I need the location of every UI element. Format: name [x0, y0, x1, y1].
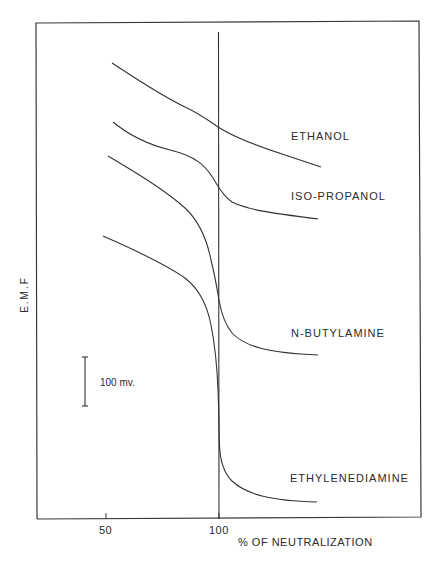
- label-isopropanol: ISO-PROPANOL: [291, 190, 386, 202]
- scale-bar: [82, 357, 88, 406]
- label-nbutylamine: N-BUTYLAMINE: [291, 327, 385, 339]
- chart-frame: [36, 21, 421, 519]
- curve-ethanol: [112, 63, 321, 167]
- x-tick-label-100: 100: [209, 524, 229, 536]
- x-axis-label: % OF NEUTRALIZATION: [238, 536, 373, 548]
- curve-isopropanol: [113, 122, 318, 219]
- scale-bar-label: 100 mv.: [100, 377, 135, 388]
- curve-nbutylamine: [108, 156, 318, 355]
- curve-ethylenediamine: [103, 236, 317, 502]
- label-ethylenediamine: ETHYLENEDIAMINE: [290, 472, 409, 484]
- y-axis-label: E.M.F: [19, 276, 30, 313]
- titration-chart: ETHANOL ISO-PROPANOL N-BUTYLAMINE ETHYLE…: [0, 0, 438, 566]
- label-ethanol: ETHANOL: [291, 130, 350, 142]
- x-tick-label-50: 50: [99, 524, 112, 536]
- equivalence-line-100: [219, 32, 220, 519]
